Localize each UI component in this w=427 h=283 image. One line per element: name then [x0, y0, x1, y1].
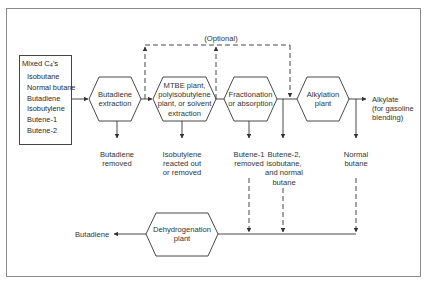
- feed-component: Butene-2: [27, 126, 75, 137]
- isobutylene-removed-label: Isobutylenereacted outor removed: [157, 150, 207, 178]
- alkylation-plant-label: Alkylationplant: [297, 90, 349, 108]
- butadiene-removed-label: Butadieneremoved: [92, 150, 142, 168]
- butene2-mix-label: Butene-2,isobutane,and normalbutane: [262, 150, 306, 187]
- normal-butane-label: Normalbutane: [336, 150, 376, 168]
- feed-component: Normal butane: [27, 83, 75, 94]
- dehydrogenation-plant-label: Dehydrogenationplant: [146, 225, 218, 243]
- mtbe-plant-label: MTBE plant,polyisobutyleneplant, or solv…: [153, 81, 216, 118]
- alkylate-label: Alkylate(for gasolineblending): [372, 95, 424, 123]
- feed-component: Butadiene: [27, 94, 75, 105]
- butadiene-extraction-label: Butadieneextraction: [91, 90, 139, 108]
- mixed-c4-feed-box: Mixed C4's Isobutane Normal butane Butad…: [19, 55, 72, 145]
- feed-component: Butene-1: [27, 115, 75, 126]
- butadiene-product-label: Butadiene: [75, 230, 115, 239]
- feed-components-list: Isobutane Normal butane Butadiene Isobut…: [27, 72, 75, 137]
- feed-title: Mixed C4's: [22, 59, 58, 70]
- fractionation-label: Fractionationor absorption: [224, 90, 277, 108]
- feed-component: Isobutane: [27, 72, 75, 83]
- feed-component: Isobutylene: [27, 104, 75, 115]
- optional-label: (Optional): [196, 34, 246, 43]
